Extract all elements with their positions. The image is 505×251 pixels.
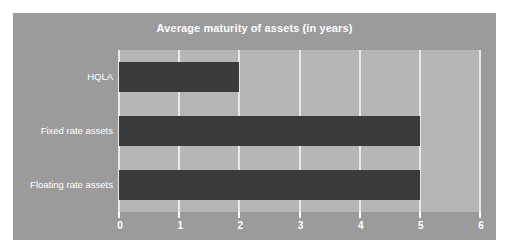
category-label: Floating rate assets — [13, 179, 113, 190]
tick-mark-4 — [359, 212, 361, 218]
tick-label-5: 5 — [410, 220, 432, 231]
bar — [119, 116, 420, 146]
gridline-6 — [479, 50, 481, 212]
category-label: HQLA — [13, 71, 113, 82]
tick-label-3: 3 — [290, 220, 312, 231]
category-axis-labels: HQLAFixed rate assetsFloating rate asset… — [13, 50, 113, 212]
chart-frame: Average maturity of assets (in years) HQ… — [13, 13, 496, 240]
bar — [119, 170, 420, 200]
plot-area — [119, 50, 480, 212]
tick-mark-1 — [178, 212, 180, 218]
tick-mark-2 — [238, 212, 240, 218]
category-label: Fixed rate assets — [13, 125, 113, 136]
tick-mark-3 — [299, 212, 301, 218]
x-axis-ticks: 0123456 — [119, 212, 480, 240]
tick-mark-0 — [118, 212, 120, 218]
tick-label-2: 2 — [229, 220, 251, 231]
tick-label-4: 4 — [350, 220, 372, 231]
bar — [119, 62, 239, 92]
chart-title: Average maturity of assets (in years) — [13, 22, 496, 34]
tick-label-6: 6 — [470, 220, 492, 231]
tick-mark-5 — [419, 212, 421, 218]
tick-label-1: 1 — [169, 220, 191, 231]
tick-mark-6 — [479, 212, 481, 218]
tick-label-0: 0 — [109, 220, 131, 231]
